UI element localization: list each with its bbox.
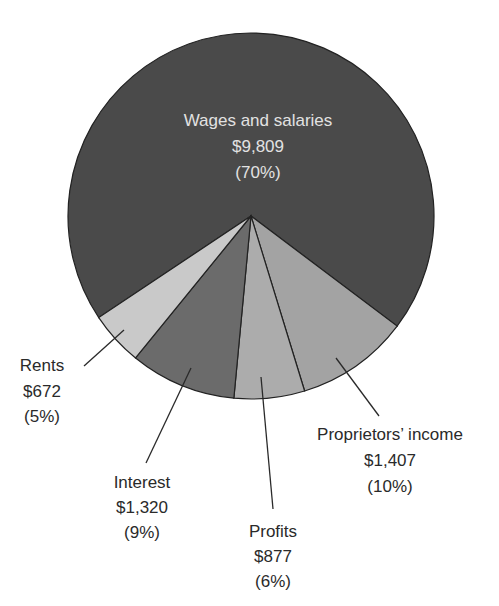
label-interest: Interest $1,320 (9%) <box>114 473 171 542</box>
label-rents: Rents $672 (5%) <box>20 356 64 426</box>
label-profits: Profits $877 (6%) <box>249 522 297 591</box>
label-proprietors-income: Proprietors’ income $1,407 (10%) <box>317 425 463 496</box>
label-amount: $9,809 <box>232 137 284 156</box>
pie-slices <box>68 33 434 399</box>
label-name: Rents <box>20 356 64 375</box>
label-percent: (5%) <box>24 407 60 426</box>
leader-line-rents <box>84 330 124 366</box>
label-percent: (70%) <box>235 163 280 182</box>
leader-line-proprietors <box>336 358 379 416</box>
label-name: Wages and salaries <box>184 111 333 130</box>
label-amount: $877 <box>254 547 292 566</box>
label-amount: $1,407 <box>364 451 416 470</box>
leader-line-interest <box>146 368 191 463</box>
label-percent: (6%) <box>255 572 291 591</box>
label-percent: (10%) <box>367 477 412 496</box>
label-name: Proprietors’ income <box>317 425 463 444</box>
label-name: Profits <box>249 522 297 541</box>
label-amount: $1,320 <box>116 498 168 517</box>
label-name: Interest <box>114 473 171 492</box>
label-percent: (9%) <box>124 523 160 542</box>
label-amount: $672 <box>23 382 61 401</box>
pie-chart: Wages and salaries $9,809 (70%) Rents $6… <box>0 0 499 606</box>
